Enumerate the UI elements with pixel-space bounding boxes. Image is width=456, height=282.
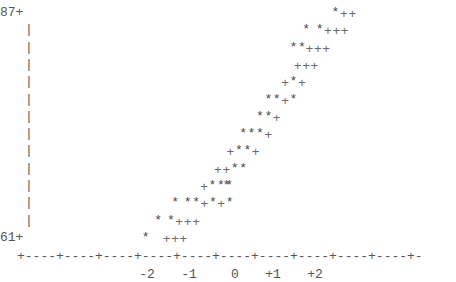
reference-line-point: + <box>311 59 319 74</box>
observation-point: * <box>226 195 234 210</box>
plot-marks: *++**+++**+++++++*+**+***+***++**+++**+*… <box>142 5 357 247</box>
observation-point: * <box>222 178 230 193</box>
reference-line-point: + <box>322 42 330 57</box>
y-axis-segment: | <box>25 57 33 72</box>
y-axis-segment: | <box>25 22 33 37</box>
reference-line-point: + <box>184 215 192 230</box>
reference-line-point: + <box>302 59 310 74</box>
observation-point: * <box>142 230 150 245</box>
observation-point: * <box>273 92 281 107</box>
y-axis-segment: | <box>25 126 33 141</box>
x-tick-label-m2: -2 <box>139 267 155 282</box>
reference-line-point: + <box>273 111 281 126</box>
reference-line-point: + <box>348 7 356 22</box>
x-tick-label-p1: +1 <box>265 267 281 282</box>
reference-line-point: + <box>171 232 179 247</box>
reference-line-point: + <box>217 197 225 212</box>
observation-point: * <box>256 109 264 124</box>
y-axis-segment: | <box>25 40 33 55</box>
reference-line-point: + <box>201 197 209 212</box>
observation-point: * <box>239 126 247 141</box>
y-tick-label-61: 61+ <box>0 230 24 245</box>
reference-line-point: + <box>227 145 235 160</box>
y-axis-segment: | <box>25 109 33 124</box>
observation-point: * <box>332 5 340 20</box>
observation-point: * <box>290 92 298 107</box>
x-axis-line: +----+----+----+----+----+----+----+----… <box>17 249 423 264</box>
chart-title <box>224 0 232 2</box>
reference-line-point: + <box>180 232 188 247</box>
observation-point: * <box>239 161 247 176</box>
observation-point: * <box>316 22 324 37</box>
observation-point: * <box>192 195 200 210</box>
reference-line-point: + <box>341 24 349 39</box>
y-axis-segment: | <box>25 143 33 158</box>
reference-line-point: + <box>163 232 171 247</box>
reference-line-point: + <box>314 42 322 57</box>
x-tick-label-m1: -1 <box>181 267 197 282</box>
x-tick-label-p2: +2 <box>307 267 323 282</box>
observation-point: * <box>290 40 298 55</box>
observation-point: * <box>167 213 175 228</box>
reference-line-point: + <box>175 215 183 230</box>
y-axis-segment: | <box>25 161 33 176</box>
observation-point: * <box>171 195 179 210</box>
reference-line-point: + <box>340 7 348 22</box>
observation-point: * <box>290 74 298 89</box>
y-axis-segment: | <box>25 178 33 193</box>
observation-point: * <box>248 126 256 141</box>
observation-point: * <box>154 213 162 228</box>
observation-point: * <box>235 143 243 158</box>
reference-line-point: + <box>214 163 222 178</box>
y-tick-label-87: 87+ <box>0 5 24 20</box>
reference-line-point: + <box>192 215 200 230</box>
observation-point: * <box>264 92 272 107</box>
observation-point: * <box>243 143 251 158</box>
x-tick-label-0: 0 <box>231 267 239 282</box>
observation-point: * <box>264 109 272 124</box>
observation-point: * <box>209 178 217 193</box>
y-axis-segment: | <box>25 213 33 228</box>
reference-line-point: + <box>298 76 306 91</box>
reference-line-point: + <box>200 180 208 195</box>
reference-line-point: + <box>306 42 314 57</box>
reference-line-point: + <box>281 94 289 109</box>
observation-point: * <box>302 22 310 37</box>
normal-probability-plot: 87+61+||||||||||||+----+----+----+----+-… <box>0 0 456 282</box>
observation-point: * <box>184 195 192 210</box>
reference-line-point: + <box>252 145 260 160</box>
reference-line-point: + <box>264 128 272 143</box>
y-axis-segment: | <box>25 92 33 107</box>
observation-point: * <box>209 195 217 210</box>
reference-line-point: + <box>332 24 340 39</box>
reference-line-point: + <box>281 76 289 91</box>
observation-point: * <box>256 126 264 141</box>
reference-line-point: + <box>222 163 230 178</box>
axes: 87+61+||||||||||||+----+----+----+----+-… <box>0 0 423 282</box>
y-axis-segment: | <box>25 74 33 89</box>
observation-point: * <box>231 161 239 176</box>
reference-line-point: + <box>324 24 332 39</box>
y-axis-segment: | <box>25 195 33 210</box>
reference-line-point: + <box>294 59 302 74</box>
